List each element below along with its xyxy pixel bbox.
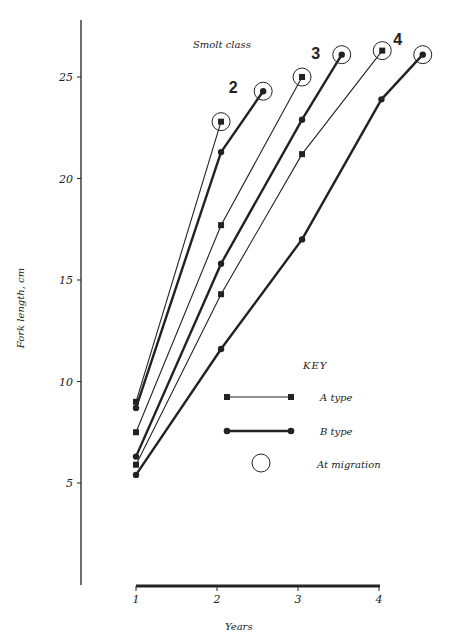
series-class-2-b-type bbox=[133, 82, 272, 411]
open-circle-icon bbox=[252, 454, 270, 472]
circle-marker-icon bbox=[133, 453, 139, 459]
circle-marker-icon bbox=[218, 261, 224, 267]
x-tick-label: 3 bbox=[295, 593, 302, 606]
x-tick-label: 1 bbox=[133, 593, 140, 606]
circle-marker-icon bbox=[420, 51, 426, 57]
circle-marker-icon bbox=[339, 51, 345, 57]
circle-marker-icon bbox=[218, 346, 224, 352]
smolt-class-label: 4 bbox=[393, 31, 402, 48]
y-tick-label: 20 bbox=[58, 173, 73, 186]
square-marker-icon bbox=[288, 394, 294, 400]
x-tick-label: 2 bbox=[213, 593, 221, 606]
y-tick-label: 25 bbox=[58, 71, 73, 84]
square-marker-icon bbox=[224, 394, 230, 400]
circle-marker-icon bbox=[299, 116, 305, 122]
circle-marker-icon bbox=[288, 428, 295, 435]
y-tick-label: 10 bbox=[59, 376, 73, 389]
legend-entry-migration: At migration bbox=[252, 454, 381, 472]
legend: KEY A type B type At migration bbox=[224, 360, 381, 472]
circle-marker-icon bbox=[378, 96, 384, 102]
circle-marker-icon bbox=[260, 88, 266, 94]
series-class-4-a-type bbox=[133, 42, 391, 468]
chart-subtitle: Smolt class bbox=[193, 39, 251, 50]
circle-marker-icon bbox=[299, 236, 305, 242]
circle-marker-icon bbox=[133, 405, 139, 411]
y-tick-label: 15 bbox=[59, 274, 73, 287]
square-marker-icon bbox=[133, 429, 139, 435]
series-class-4-b-type bbox=[133, 46, 432, 478]
y-tick-label: 5 bbox=[66, 477, 73, 490]
square-marker-icon bbox=[299, 151, 305, 157]
smolt-class-label: 3 bbox=[311, 45, 320, 62]
series-line bbox=[136, 91, 263, 408]
circle-marker-icon bbox=[133, 472, 139, 478]
legend-label-migration: At migration bbox=[316, 459, 381, 470]
legend-entry-a-type: A type bbox=[224, 392, 352, 403]
x-axis-title: Years bbox=[225, 621, 253, 632]
legend-entry-b-type: B type bbox=[224, 426, 353, 437]
series-group bbox=[133, 42, 432, 478]
growth-chart: 5101520251234 234 Smolt class Years Fork… bbox=[0, 0, 451, 644]
square-marker-icon bbox=[379, 48, 385, 54]
series-line bbox=[136, 55, 342, 457]
annotations: 234 bbox=[229, 31, 402, 97]
square-marker-icon bbox=[299, 74, 305, 80]
square-marker-icon bbox=[218, 222, 224, 228]
square-marker-icon bbox=[133, 462, 139, 468]
axes: 5101520251234 bbox=[58, 20, 383, 606]
square-marker-icon bbox=[218, 119, 224, 125]
legend-label-a-type: A type bbox=[319, 392, 352, 403]
y-axis-title: Fork length, cm bbox=[15, 268, 26, 349]
smolt-class-label: 2 bbox=[229, 79, 238, 96]
circle-marker-icon bbox=[218, 149, 224, 155]
series-class-2-a-type bbox=[133, 113, 230, 405]
square-marker-icon bbox=[218, 291, 224, 297]
x-tick-label: 4 bbox=[375, 593, 383, 606]
series-class-3-b-type bbox=[133, 46, 351, 460]
legend-label-b-type: B type bbox=[319, 426, 353, 437]
legend-title: KEY bbox=[302, 360, 328, 371]
circle-marker-icon bbox=[224, 428, 231, 435]
